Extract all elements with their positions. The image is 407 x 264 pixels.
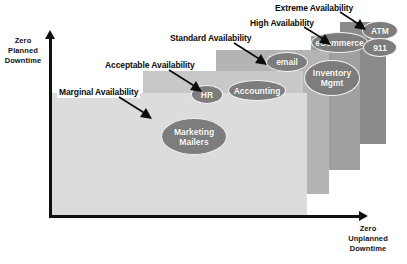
- node-label-line1: Accounting: [234, 86, 281, 96]
- x-axis-caption-line2: Unplanned: [333, 234, 403, 244]
- node-label-line2: Mailers: [179, 137, 208, 147]
- node-label-line1: ATM: [371, 26, 389, 36]
- node-marketing-mailers[interactable]: Marketing Mailers: [161, 118, 227, 155]
- callout-arrow-high: [303, 26, 337, 48]
- y-axis-caption-line3: Downtime: [0, 56, 46, 66]
- x-axis-caption: Zero Unplanned Downtime: [333, 224, 403, 254]
- callout-arrow-marginal: [118, 96, 158, 122]
- y-axis-arrowhead: [45, 30, 55, 39]
- x-axis-line: [49, 215, 361, 218]
- y-axis-caption-line1: Zero: [0, 36, 46, 46]
- y-axis-caption: Zero Planned Downtime: [0, 36, 46, 66]
- callout-arrow-extreme: [339, 11, 371, 33]
- node-label-line2: Mgmt: [321, 78, 344, 88]
- y-axis-line: [49, 38, 52, 218]
- availability-diagram: Marketing Mailers HR Accounting email In…: [0, 0, 407, 264]
- node-label-line1: Inventory: [313, 68, 351, 78]
- node-label-line1: email: [276, 57, 298, 67]
- y-axis-caption-line2: Planned: [0, 46, 46, 56]
- node-label-line1: 911: [373, 43, 387, 53]
- callout-arrow-standard: [233, 42, 273, 68]
- layer-marginal-availability: [52, 93, 307, 217]
- x-axis-arrowhead: [359, 211, 368, 221]
- node-emergency-911[interactable]: 911: [363, 38, 397, 57]
- node-inventory-mgmt[interactable]: Inventory Mgmt: [304, 60, 360, 96]
- node-label-line1: Marketing: [174, 127, 214, 137]
- node-accounting[interactable]: Accounting: [228, 80, 286, 101]
- callout-arrow-acceptable: [168, 69, 208, 95]
- x-axis-caption-line3: Downtime: [333, 244, 403, 254]
- x-axis-caption-line1: Zero: [333, 224, 403, 234]
